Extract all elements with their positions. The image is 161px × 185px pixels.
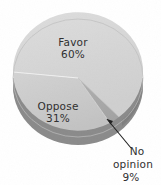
slice-label-oppose: Oppose: [37, 100, 78, 112]
slice-label-favor: Favor: [58, 36, 88, 48]
callout-value-no-opinion: 9%: [122, 171, 139, 183]
slice-value-oppose: 31%: [46, 112, 70, 124]
callout-label-line1: No: [130, 145, 145, 157]
callout-label-line2: opinion: [113, 158, 153, 170]
pie-chart: Favor 60% Oppose 31% No opinion 9%: [0, 0, 161, 185]
slice-value-favor: 60%: [61, 48, 85, 60]
pie-chart-graphic: Favor 60% Oppose 31% No opinion 9%: [0, 0, 161, 185]
